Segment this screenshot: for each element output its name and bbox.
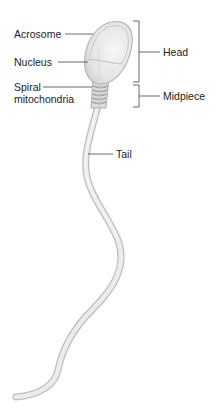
label-acrosome: Acrosome <box>14 28 61 40</box>
head-bracket <box>133 21 160 82</box>
label-head: Head <box>163 46 188 58</box>
tail <box>16 105 121 397</box>
label-spiral: Spiral <box>14 81 41 93</box>
label-mitochondria: mitochondria <box>14 93 74 105</box>
label-tail: Tail <box>116 148 132 160</box>
label-midpiece: Midpiece <box>163 90 205 102</box>
head <box>85 22 133 84</box>
label-nucleus: Nucleus <box>14 56 52 68</box>
midpiece-bracket <box>133 85 160 107</box>
